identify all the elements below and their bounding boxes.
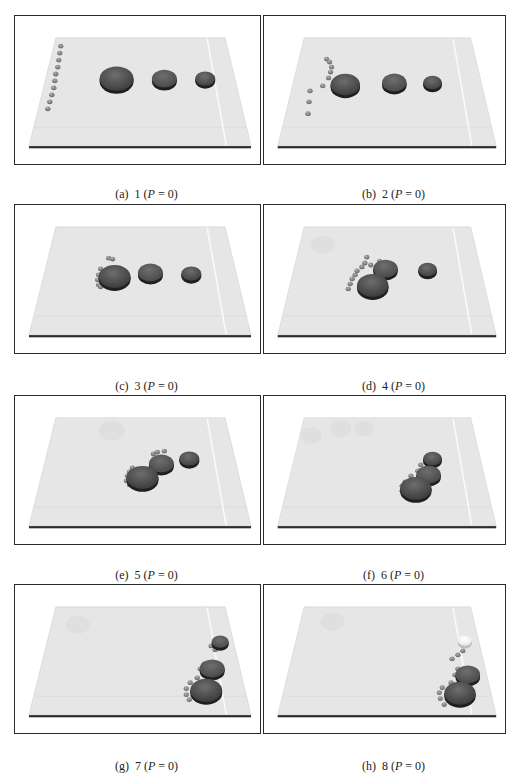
robot-marker	[350, 277, 355, 282]
ghost-trail	[321, 613, 345, 631]
caption-value: 0	[415, 187, 421, 201]
caption-step: 3	[135, 379, 141, 393]
simulation-frame	[263, 204, 506, 354]
arena-floor	[29, 227, 251, 335]
caption-param: P	[394, 568, 401, 582]
simulation-frame	[263, 395, 506, 545]
simulation-frame	[263, 584, 506, 734]
caption-param: P	[148, 568, 155, 582]
caption-label: (b)	[362, 187, 376, 201]
object-disc	[179, 451, 199, 468]
caption-step: 7	[135, 759, 141, 773]
object-disc	[100, 66, 134, 93]
robot-marker	[438, 696, 443, 701]
robot-marker	[51, 86, 56, 91]
robot-marker	[52, 79, 57, 84]
robot-marker	[368, 263, 373, 268]
ghost-trail	[311, 236, 335, 254]
object-disc	[138, 264, 163, 285]
robot-marker	[346, 286, 351, 291]
robot-marker	[55, 65, 60, 70]
simulation-scene	[264, 396, 505, 544]
robot-marker	[49, 92, 54, 97]
arena-base-edge	[29, 526, 251, 528]
robot-marker	[188, 680, 193, 685]
simulation-scene	[15, 396, 260, 544]
object-disc	[127, 466, 159, 492]
object-disc	[152, 70, 177, 91]
arena-base-edge	[278, 335, 496, 337]
caption-label: (g)	[115, 759, 129, 773]
caption-label: (c)	[115, 379, 128, 393]
caption-label: (f)	[363, 568, 375, 582]
robot-marker	[440, 685, 445, 690]
object-disc	[195, 71, 215, 88]
robot-marker	[307, 89, 312, 94]
caption-label: (h)	[362, 759, 376, 773]
robot-marker	[455, 653, 460, 658]
robot-marker	[47, 99, 52, 104]
caption-param: P	[395, 187, 402, 201]
robot-marker	[307, 99, 312, 104]
robot-marker	[162, 449, 167, 454]
object-disc	[357, 274, 388, 300]
arena-base-edge	[278, 715, 496, 717]
robot-marker	[328, 70, 333, 75]
robot-marker	[184, 686, 189, 691]
robot-marker	[56, 58, 61, 63]
robot-marker	[362, 261, 367, 266]
simulation-scene	[264, 16, 505, 164]
panel-caption: (g) 7 (P = 0)	[14, 744, 261, 777]
simulation-frame	[14, 395, 261, 545]
simulation-frame	[14, 204, 261, 354]
robot-marker	[450, 657, 455, 662]
caption-step: 6	[381, 568, 387, 582]
caption-value: 0	[168, 568, 174, 582]
simulation-scene	[15, 16, 260, 164]
caption-value: 0	[168, 379, 174, 393]
arena-base-edge	[29, 335, 251, 337]
ghost-trail	[66, 616, 90, 634]
object-disc	[212, 636, 229, 651]
caption-step: 2	[382, 187, 388, 201]
caption-label: (e)	[115, 568, 128, 582]
robot-marker	[348, 281, 353, 286]
object-disc	[200, 659, 225, 680]
object-disc	[99, 265, 131, 291]
caption-step: 1	[135, 187, 141, 201]
panel-caption: (h) 8 (P = 0)	[263, 744, 506, 777]
robot-marker	[184, 692, 189, 697]
robot-marker	[418, 463, 423, 468]
robot-marker	[364, 255, 369, 260]
caption-param: P	[395, 379, 402, 393]
robot-marker	[460, 649, 465, 654]
robot-marker	[53, 72, 58, 77]
caption-step: 4	[382, 379, 388, 393]
caption-param: P	[395, 759, 402, 773]
caption-step: 5	[135, 568, 141, 582]
simulation-frame	[14, 15, 261, 165]
caption-label: (a)	[115, 187, 128, 201]
object-disc	[400, 477, 431, 503]
object-disc	[382, 74, 406, 95]
arena-base-edge	[278, 526, 496, 528]
robot-marker	[437, 690, 442, 695]
arena-base-edge	[29, 715, 251, 717]
simulation-frame	[263, 15, 506, 165]
robot-marker	[442, 702, 447, 707]
simulation-scene	[15, 205, 260, 353]
robot-marker	[110, 257, 115, 262]
robot-marker	[320, 84, 325, 89]
object-disc	[190, 679, 222, 705]
simulation-scene	[264, 205, 505, 353]
object-disc	[444, 682, 475, 708]
caption-step: 8	[382, 759, 388, 773]
robot-marker	[58, 44, 63, 49]
object-disc	[181, 266, 201, 283]
object-disc	[418, 263, 437, 280]
simulation-scene	[264, 585, 505, 733]
robot-marker	[195, 675, 200, 680]
caption-value: 0	[414, 568, 420, 582]
robot-marker	[187, 697, 192, 702]
robot-marker	[359, 265, 364, 270]
